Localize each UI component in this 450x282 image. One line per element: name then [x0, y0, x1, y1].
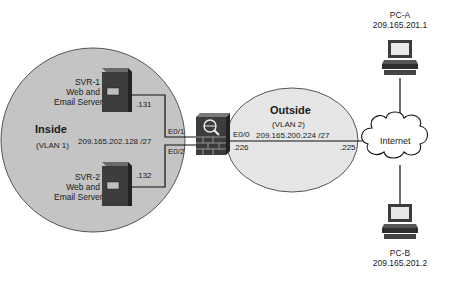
server-role: Web and [54, 182, 100, 192]
server-name: SVR-1 [54, 77, 100, 87]
inside-title: Inside [35, 124, 67, 134]
inside-subnet: 209.165.202.128 /27 [78, 137, 151, 147]
firewall-icon [196, 113, 230, 155]
pc-icon [382, 204, 418, 239]
interface-e0-0: E0/0 [233, 130, 249, 140]
pc-b-label: PC-B 209.165.201.2 [370, 248, 430, 268]
pc-a-label: PC-A 209.165.201.1 [370, 10, 430, 30]
inside-vlan: (VLAN 1) [36, 141, 69, 151]
interface-e0-1: E0/1 [168, 127, 184, 137]
outside-subnet: 209.165.200.224 /27 [256, 131, 329, 141]
server-icon [102, 162, 132, 206]
internet-label: Internet [380, 136, 411, 146]
pc-icon [382, 40, 418, 75]
pc-name: PC-A [370, 10, 430, 20]
pc-name: PC-B [370, 248, 430, 258]
server-icon [102, 68, 132, 112]
firewall-outside-host: .226 [233, 143, 249, 153]
server-2-label: SVR-2 Web and Email Server [54, 172, 100, 202]
pc-ip: 209.165.201.1 [370, 20, 430, 30]
outside-vlan: (VLAN 2) [272, 120, 305, 130]
interface-e0-2: E0/2 [168, 147, 184, 157]
server-role: Web and [54, 87, 100, 97]
server-role: Email Server [54, 97, 100, 107]
server-1-label: SVR-1 Web and Email Server [54, 77, 100, 107]
server-1-host: .131 [136, 100, 152, 110]
pc-ip: 209.165.201.2 [370, 258, 430, 268]
server-name: SVR-2 [54, 172, 100, 182]
outside-title: Outside [270, 105, 311, 115]
server-2-host: .132 [136, 171, 152, 181]
router-outside-host: .225 [340, 143, 356, 153]
internet-cloud-icon [362, 112, 428, 158]
server-role: Email Server [54, 192, 100, 202]
